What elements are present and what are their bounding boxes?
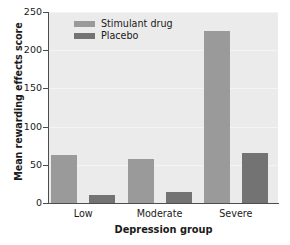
chart-legend: Stimulant drug Placebo bbox=[74, 18, 173, 42]
x-axis-line bbox=[48, 203, 279, 204]
x-axis-title: Depression group bbox=[48, 224, 279, 235]
gridline bbox=[49, 12, 278, 13]
y-tick-mark bbox=[43, 165, 48, 166]
gridline bbox=[49, 88, 278, 89]
bar bbox=[89, 195, 115, 203]
legend-item-placebo: Placebo bbox=[74, 30, 173, 41]
x-tick-label: Severe bbox=[219, 208, 252, 219]
y-tick-label: 150 bbox=[16, 82, 42, 93]
bar-chart-figure: Mean rewarding effects score 05010015020… bbox=[0, 0, 290, 245]
y-axis-tick-labels: 050100150200250 bbox=[14, 0, 42, 245]
x-tick-label: Moderate bbox=[137, 208, 183, 219]
y-tick-mark bbox=[43, 50, 48, 51]
bar bbox=[242, 153, 268, 203]
y-tick-mark bbox=[43, 88, 48, 89]
y-tick-label: 200 bbox=[16, 44, 42, 55]
bar bbox=[204, 31, 230, 203]
legend-item-stimulant-drug: Stimulant drug bbox=[74, 18, 173, 29]
legend-swatch-icon-placebo bbox=[74, 33, 95, 39]
y-tick-label: 0 bbox=[16, 197, 42, 208]
x-tick-label: Low bbox=[74, 208, 93, 219]
legend-swatch-icon-stimulant-drug bbox=[74, 21, 95, 27]
bar bbox=[166, 192, 192, 203]
y-tick-label: 50 bbox=[16, 159, 42, 170]
legend-label-stimulant-drug: Stimulant drug bbox=[101, 18, 173, 29]
y-tick-label: 250 bbox=[16, 6, 42, 17]
y-tick-label: 100 bbox=[16, 121, 42, 132]
y-tick-mark bbox=[43, 203, 48, 204]
legend-label-placebo: Placebo bbox=[101, 30, 138, 41]
gridline bbox=[49, 127, 278, 128]
bar bbox=[51, 155, 77, 203]
bar bbox=[128, 159, 154, 203]
y-tick-mark bbox=[43, 127, 48, 128]
y-tick-mark bbox=[43, 12, 48, 13]
gridline bbox=[49, 50, 278, 51]
